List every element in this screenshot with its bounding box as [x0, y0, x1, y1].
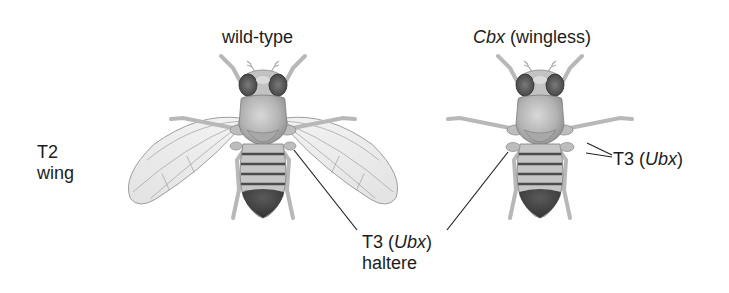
cbx-title: Cbx (wingless)	[473, 27, 591, 48]
cbx-t3-label: T3 (Ubx)	[613, 149, 683, 170]
t2-wing-label: T2 wing	[37, 142, 74, 184]
haltere-leader-line-right	[447, 152, 508, 230]
ubx-gene-name: Ubx	[394, 232, 426, 252]
wild-type-fly	[117, 56, 409, 218]
ubx-gene-name: Ubx	[645, 149, 677, 169]
t3-appendage-right-icon	[560, 143, 574, 152]
t3-haltere-label: T3 (Ubx) haltere	[362, 232, 432, 274]
haltere-right-icon	[284, 142, 296, 150]
t3-appendage-left-icon	[506, 143, 520, 152]
haltere-left-icon	[230, 142, 242, 150]
wild-type-title: wild-type	[222, 27, 293, 48]
cbx-gene-name: Cbx	[473, 27, 505, 47]
